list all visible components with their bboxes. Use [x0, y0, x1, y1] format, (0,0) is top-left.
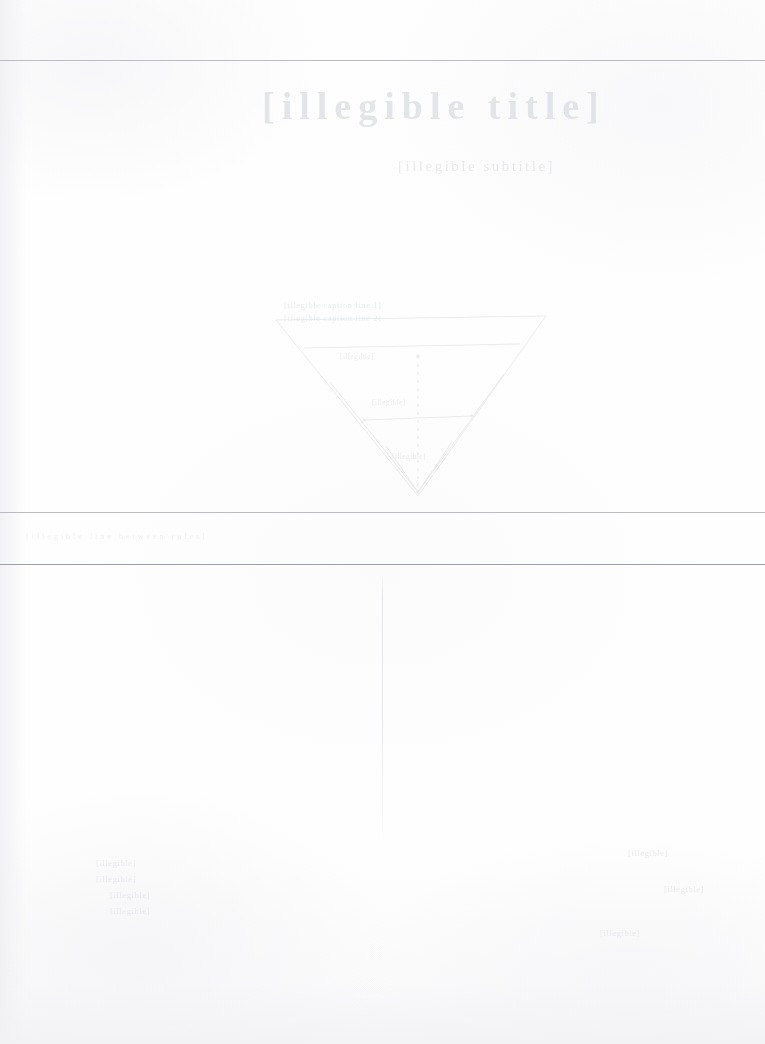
figure-label-1: [illegible]	[340, 352, 374, 362]
footer-left-line-1: [illegible]	[96, 858, 136, 869]
figure-caption-line-1: [illegible caption line 1]	[284, 300, 382, 311]
footer-left-line-2: [illegible]	[96, 874, 136, 885]
page-edge-shadow-bottom	[0, 984, 765, 1044]
middle-rule-lower	[0, 564, 765, 565]
figure-label-3: [illegible]	[392, 452, 426, 462]
page-edge-shadow-left	[0, 0, 26, 1044]
scanned-page: [illegible title] [illegible subtitle] […	[0, 0, 765, 1044]
footer-right-line-2: [illegible]	[664, 884, 704, 895]
footer-right-line-1: [illegible]	[628, 848, 668, 859]
paper-texture	[0, 0, 765, 1044]
footer-left-line-4: [illegible]	[110, 906, 150, 917]
triangular-diagram	[268, 296, 558, 506]
band-text: [illegible line between rules]	[26, 532, 208, 541]
footer-right-line-3: [illegible]	[600, 928, 640, 939]
triangular-diagram-graphic	[268, 296, 558, 506]
top-rule	[0, 60, 765, 61]
page-title: [illegible title]	[262, 84, 606, 128]
page-subtitle: [illegible subtitle]	[398, 158, 555, 175]
lower-vertical-hairline	[382, 575, 383, 845]
middle-rule-upper	[0, 512, 765, 513]
footer-left-line-3: [illegible]	[110, 890, 150, 901]
figure-label-2: [illegible]	[372, 398, 406, 408]
figure-caption-line-2: [illegible caption line 2]	[284, 313, 382, 324]
